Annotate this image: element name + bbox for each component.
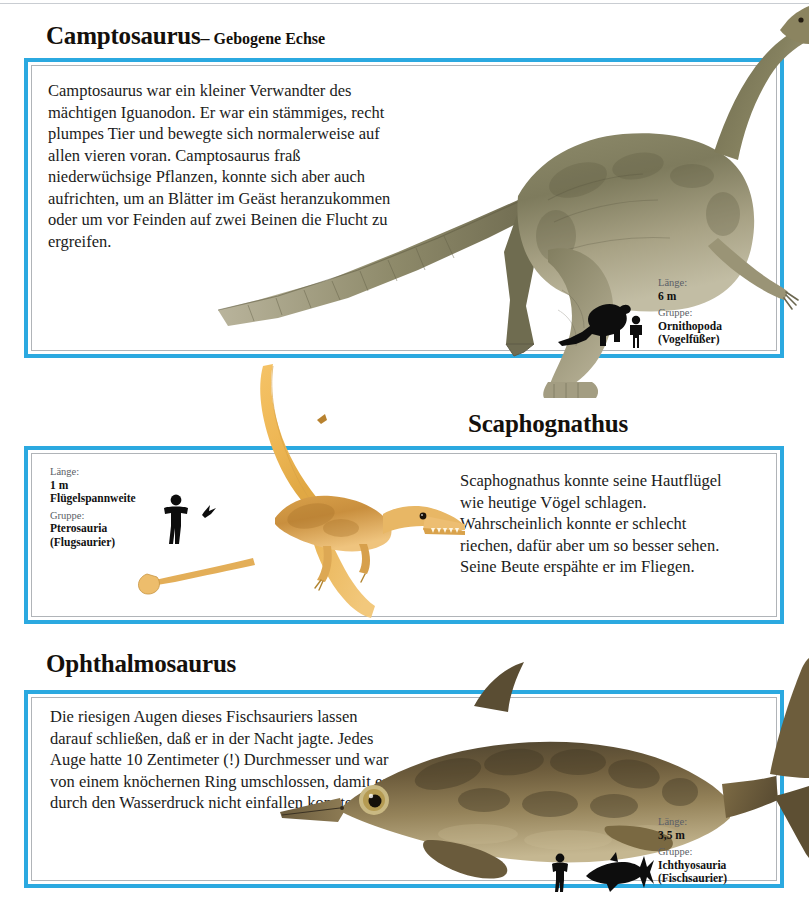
camptosaurus-silhouette [558,304,631,346]
group-common-name: (Vogelfüßer) [658,333,722,347]
ichthyosaur-silhouette [586,852,654,892]
page-top-rule [0,3,809,4]
description-scaphognathus: Scaphognathus konnte seine Hautflügel wi… [460,470,740,578]
heading-common-name: Gebogene Echse [214,30,326,47]
encyclopedia-page: Camptosaurus– Gebogene Echse Camptosauru… [0,0,809,908]
length-label: Länge: [658,816,727,829]
heading-ophthalmosaurus: Ophthalmosaurus [46,650,236,678]
length-value: 6 m [658,290,722,304]
info-box-camptosaurus: Länge: 6 m Gruppe: Ornithopoda (Vogelfüß… [658,277,722,347]
group-value: Ornithopoda [658,320,722,334]
length-value: 3,5 m [658,829,727,843]
heading-scaphognathus: Scaphognathus [468,410,628,438]
scale-comparison-camptosaurus [556,296,652,356]
description-text: Camptosaurus war ein kleiner Verwandter … [48,80,408,252]
wingspan-label: Flügelspannweite [50,492,136,506]
group-label: Gruppe: [658,307,722,320]
human-silhouette [552,854,568,892]
length-label: Länge: [50,466,136,479]
group-label: Gruppe: [658,846,727,859]
description-ophthalmosaurus: Die riesigen Augen dieses Fischsauriers … [50,706,395,814]
info-box-scaphognathus: Länge: 1 m Flügelspannweite Gruppe: Pter… [50,466,136,549]
description-text: Die riesigen Augen dieses Fischsauriers … [50,706,395,814]
length-value: 1 m [50,479,136,493]
scaphognathus-silhouette [202,505,216,518]
heading-camptosaurus: Camptosaurus– Gebogene Echse [46,22,325,50]
description-text: Scaphognathus konnte seine Hautflügel wi… [460,470,740,578]
page-title: Camptosaurus [46,22,201,49]
human-silhouette [164,495,188,544]
group-value: Ichthyosauria [658,859,727,873]
page-title: Scaphognathus [468,410,628,437]
group-common-name: (Flugsaurier) [50,536,136,550]
info-box-ophthalmosaurus: Länge: 3,5 m Gruppe: Ichthyosauria (Fisc… [658,816,727,886]
human-silhouette [630,316,642,348]
page-title: Ophthalmosaurus [46,650,236,677]
length-label: Länge: [658,277,722,290]
description-camptosaurus: Camptosaurus war ein kleiner Verwandter … [48,80,408,252]
heading-dash: – [201,28,210,48]
group-common-name: (Fischsaurier) [658,872,727,886]
scale-comparison-ophthalmosaurus [548,850,658,898]
group-value: Pterosauria [50,522,136,536]
scale-comparison-scaphognathus [160,492,220,554]
group-label: Gruppe: [50,510,136,523]
